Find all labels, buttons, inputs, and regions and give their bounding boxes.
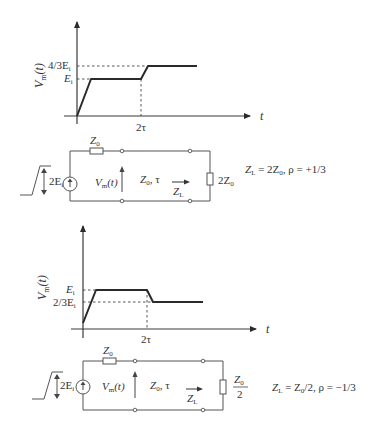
series-resistor-label: Z0 xyxy=(90,134,100,148)
waveform xyxy=(77,66,197,116)
level-label-4-3-ei: 4/3Ei xyxy=(48,59,71,73)
zl-label: ZL xyxy=(187,392,197,406)
waveform xyxy=(83,290,203,323)
bottom-circuit: 2Ei Z0 Vm(t) Z0, τ ZL Z0 2 ZL = Z0/2, ρ … xyxy=(32,344,356,412)
zl-label: ZL xyxy=(173,185,183,199)
line-label: Z0, τ xyxy=(150,379,170,393)
top-circuit: 2Ei Z0 Vm(t) Z0, τ ZL 2Z0 ZL = 2Z0, ρ = … xyxy=(20,134,326,203)
diagram-canvas: t Vm(t) 4/3Ei Ei 2τ 2Ei Z0 xyxy=(0,0,373,427)
line-label: Z0, τ xyxy=(140,173,160,187)
svg-text:Vm(t): Vm(t) xyxy=(35,275,51,300)
svg-text:2: 2 xyxy=(237,388,243,400)
x-axis-label: t xyxy=(266,322,270,336)
load-label: 2Z0 xyxy=(218,174,234,188)
svg-text:Z0: Z0 xyxy=(234,373,244,387)
source-label: 2Ei xyxy=(60,379,74,393)
level-label-ei: Ei xyxy=(63,72,73,86)
vm-label: Vm(t) xyxy=(95,176,118,190)
y-axis-label: Vm(t) xyxy=(35,275,51,300)
series-resistor-icon xyxy=(90,148,103,154)
load-resistor-icon xyxy=(207,173,213,185)
y-axis-label: Vm(t) xyxy=(32,63,48,88)
source-label: 2Ei xyxy=(49,175,63,189)
load-label: Z0 2 xyxy=(233,373,248,400)
level-label-ei: Ei xyxy=(65,283,75,297)
series-resistor-label: Z0 xyxy=(103,344,113,358)
time-tick-2tau: 2τ xyxy=(136,121,147,133)
vm-label: Vm(t) xyxy=(102,380,125,394)
svg-text:Vm(t): Vm(t) xyxy=(32,63,48,88)
time-tick-2tau: 2τ xyxy=(141,333,152,345)
bottom-chart: t Vm(t) Ei 2/3Ei 2τ xyxy=(35,226,270,345)
level-label-2-3-ei: 2/3Ei xyxy=(53,296,76,310)
load-equation: ZL = Z0/2, ρ = −1/3 xyxy=(272,381,356,395)
load-equation: ZL = 2Z0, ρ = +1/3 xyxy=(245,163,326,177)
x-axis-label: t xyxy=(260,109,264,123)
top-chart: t Vm(t) 4/3Ei Ei 2τ xyxy=(32,22,264,133)
series-resistor-icon xyxy=(103,358,116,364)
load-resistor-icon xyxy=(220,380,226,394)
